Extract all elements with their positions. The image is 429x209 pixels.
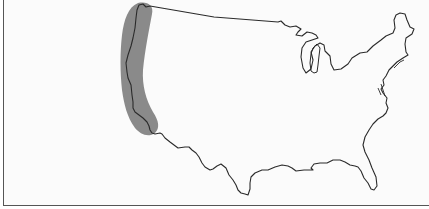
us-outline	[126, 4, 414, 195]
